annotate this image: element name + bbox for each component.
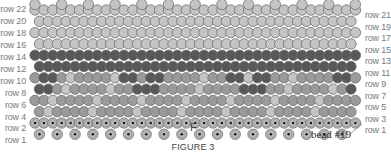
bead-hole-dot xyxy=(327,122,330,125)
bead-hole-dot xyxy=(69,122,72,125)
bead-hole-dot xyxy=(345,122,348,125)
bead-hole-dot xyxy=(336,122,339,125)
bead-hole-dot xyxy=(87,122,90,125)
bead-hole-dot xyxy=(274,122,277,125)
figure-caption: FIGURE 3 xyxy=(0,142,386,152)
bead-hole-dot xyxy=(78,122,81,125)
bead-hole-dot xyxy=(185,122,188,125)
row-label-right: row 19 xyxy=(365,22,391,32)
bead-hole-dot xyxy=(43,122,46,125)
bead-hole-dot xyxy=(270,133,273,136)
row-label-left: row 4 xyxy=(0,112,26,122)
bead-hole-dot xyxy=(132,122,135,125)
bead-hole-dot xyxy=(292,122,295,125)
bead-hole-dot xyxy=(123,122,126,125)
bead-hole-dot xyxy=(310,122,313,125)
bead xyxy=(350,95,360,105)
bead-hole-dot xyxy=(149,122,152,125)
bead xyxy=(350,0,360,10)
bead-hole-dot xyxy=(141,122,144,125)
bead xyxy=(57,0,67,10)
bead-hole-dot xyxy=(34,122,37,125)
bead-hole-dot xyxy=(283,122,286,125)
row-label-right: row 9 xyxy=(365,79,386,89)
bead xyxy=(137,0,147,10)
row-label-right: row 1 xyxy=(365,125,386,135)
row-label-left: row 20 xyxy=(0,16,26,26)
bead-hole-dot xyxy=(305,133,308,136)
bead-hole-dot xyxy=(114,122,117,125)
bead-hole-dot xyxy=(52,122,55,125)
bead-hole-dot xyxy=(230,122,233,125)
row-label-right: row 17 xyxy=(365,33,391,43)
bead xyxy=(350,73,360,83)
row-label-right: row 3 xyxy=(365,114,386,124)
bead xyxy=(350,50,360,60)
bead xyxy=(270,0,280,10)
bead-hole-dot xyxy=(181,133,184,136)
bead xyxy=(297,0,307,10)
row-label-right: row 15 xyxy=(365,45,391,55)
bead xyxy=(346,39,356,49)
bead xyxy=(346,107,356,117)
row-label-right: row 21 xyxy=(365,10,391,20)
bead-hole-dot xyxy=(167,122,170,125)
row-label-left: row 12 xyxy=(0,64,26,74)
bead-hole-dot xyxy=(252,133,255,136)
bead xyxy=(350,27,360,37)
row-label-left: row 22 xyxy=(0,4,26,14)
bead xyxy=(110,0,120,10)
bead xyxy=(83,0,93,10)
row-label-left: row 8 xyxy=(0,88,26,98)
bead-hole-dot xyxy=(60,122,63,125)
bead-hole-dot xyxy=(176,122,179,125)
bead xyxy=(217,0,227,10)
bead-hole-dot xyxy=(38,133,41,136)
bead-hole-dot xyxy=(163,133,166,136)
row-label-right: row 5 xyxy=(365,102,386,112)
bead-hole-dot xyxy=(105,122,108,125)
row-label-left: row 14 xyxy=(0,52,26,62)
bead-hole-dot xyxy=(109,133,112,136)
bead-hole-dot xyxy=(221,122,224,125)
bead-hole-dot xyxy=(203,122,206,125)
bead-hole-dot xyxy=(301,122,304,125)
bead-hole-dot xyxy=(198,133,201,136)
row-label-left: row 16 xyxy=(0,40,26,50)
row-label-right: row 11 xyxy=(365,68,390,78)
bead-hole-dot xyxy=(92,133,95,136)
bead-hole-dot xyxy=(238,122,241,125)
bead-hole-dot xyxy=(287,133,290,136)
bead-19-callout: bead #19 xyxy=(311,128,351,140)
bead-hole-dot xyxy=(256,122,259,125)
bead-hole-dot xyxy=(319,122,322,125)
bead-hole-dot xyxy=(74,133,77,136)
bead-hole-dot xyxy=(127,133,130,136)
bead-hole-dot xyxy=(354,122,357,125)
bead xyxy=(346,84,356,94)
bead xyxy=(190,0,200,10)
bead-hole-dot xyxy=(158,122,161,125)
marker-f-label: F xyxy=(190,121,197,133)
bead xyxy=(30,0,40,10)
bead-hole-dot xyxy=(247,122,250,125)
row-label-right: row 13 xyxy=(365,56,391,66)
bead-hole-dot xyxy=(96,122,99,125)
row-label-left: row 10 xyxy=(0,76,26,86)
bead-hole-dot xyxy=(265,122,268,125)
bead xyxy=(243,0,253,10)
row-label-left: row 18 xyxy=(0,28,26,38)
bead xyxy=(324,0,334,10)
bead-hole-dot xyxy=(216,133,219,136)
row-label-right: row 7 xyxy=(365,91,386,101)
bead-hole-dot xyxy=(145,133,148,136)
row-label-left: row 6 xyxy=(0,100,26,110)
bead xyxy=(163,0,173,10)
bead xyxy=(346,61,356,71)
bead-hole-dot xyxy=(234,133,237,136)
bead xyxy=(346,16,356,26)
row-label-left: row 2 xyxy=(0,123,26,133)
bead-hole-dot xyxy=(212,122,215,125)
bead-hole-dot xyxy=(56,133,59,136)
